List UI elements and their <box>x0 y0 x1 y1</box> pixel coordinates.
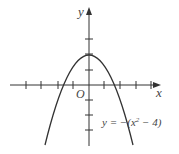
graph: y x O y = −(x2 − 4) <box>0 0 179 154</box>
x-axis-label: x <box>155 85 162 100</box>
equation-label: y = −(x2 − 4) <box>101 116 162 129</box>
y-axis-label: y <box>76 4 84 19</box>
y-axis-arrow-icon <box>86 7 92 15</box>
origin-label: O <box>76 87 85 101</box>
